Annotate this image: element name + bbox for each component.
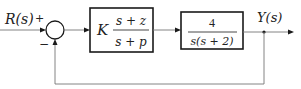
plus-sign: +	[35, 12, 44, 25]
plant-denominator: s(s + 2)	[190, 35, 233, 48]
block-diagram: R(s) + − K s + z s + p 4 s(s + 2) Y(s)	[0, 0, 301, 89]
arrow-icon	[288, 30, 294, 35]
arrow-icon	[84, 28, 90, 33]
minus-sign: −	[39, 37, 49, 51]
output-label: Y(s)	[257, 10, 282, 25]
output-signal: Y(s)	[243, 10, 294, 35]
summing-junction: −	[39, 21, 64, 51]
control-signal	[153, 28, 181, 33]
input-label: R(s)	[4, 11, 34, 27]
plant-numerator: 4	[209, 16, 215, 30]
compensator-block: K s + z s + p	[90, 8, 153, 52]
gain-label: K	[96, 21, 109, 39]
plant-block: 4 s(s + 2)	[181, 12, 243, 49]
arrow-icon	[53, 39, 58, 45]
error-signal	[64, 28, 90, 33]
arrow-icon	[175, 28, 181, 33]
compensator-numerator: s + z	[116, 14, 147, 28]
arrow-icon	[40, 28, 46, 33]
input-signal: R(s) +	[0, 11, 46, 33]
compensator-denominator: s + p	[115, 35, 147, 49]
